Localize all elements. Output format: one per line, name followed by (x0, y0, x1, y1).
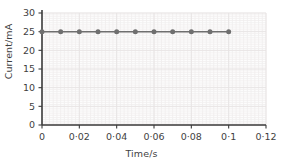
svg-text:0·04: 0·04 (106, 131, 127, 142)
x-tick-labels: 00·020·040·060·080·10·12 (39, 131, 277, 142)
plot-area: 051015202530 00·020·040·060·080·10·12 (0, 0, 283, 165)
svg-text:25: 25 (23, 26, 35, 37)
svg-text:0: 0 (39, 131, 45, 142)
svg-text:0: 0 (29, 119, 35, 130)
svg-text:5: 5 (29, 101, 35, 112)
svg-text:15: 15 (23, 63, 35, 74)
chart-figure: Current/mA Time/s 051015202530 00·020·04… (0, 0, 283, 165)
svg-text:0·08: 0·08 (181, 131, 202, 142)
svg-text:0·06: 0·06 (143, 131, 164, 142)
svg-text:30: 30 (23, 7, 35, 18)
svg-text:0·12: 0·12 (255, 131, 276, 142)
svg-text:10: 10 (23, 82, 35, 93)
y-tick-labels: 051015202530 (23, 7, 35, 130)
svg-text:20: 20 (23, 45, 35, 56)
svg-text:0·1: 0·1 (221, 131, 236, 142)
svg-text:0·02: 0·02 (69, 131, 90, 142)
